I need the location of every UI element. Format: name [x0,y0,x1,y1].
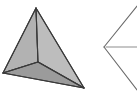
geometry-figure-canvas [0,0,137,94]
